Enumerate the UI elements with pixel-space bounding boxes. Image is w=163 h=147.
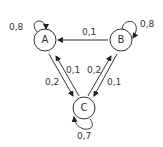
node-b-label: B (118, 35, 125, 45)
edge-b-c-label: 0,1 (107, 78, 121, 87)
node-c-label: C (81, 103, 88, 113)
self-loop-a-label: 0,8 (9, 23, 23, 32)
edge-c-a (56, 56, 79, 96)
self-loop-b-label: 0,8 (140, 20, 154, 29)
edge-c-b-label: 0,2 (87, 66, 101, 75)
node-a-label: A (42, 35, 49, 45)
edge-b-c (94, 54, 117, 96)
edge-c-b (88, 56, 111, 96)
edge-b-a-label: 0,1 (82, 28, 96, 37)
edge-a-c-label: 0,2 (45, 78, 59, 87)
edge-c-a-label: 0,1 (66, 66, 80, 75)
edge-a-c (49, 54, 73, 96)
self-loop-c-label: 0,7 (77, 132, 91, 141)
markov-chain-diagram (0, 0, 163, 147)
